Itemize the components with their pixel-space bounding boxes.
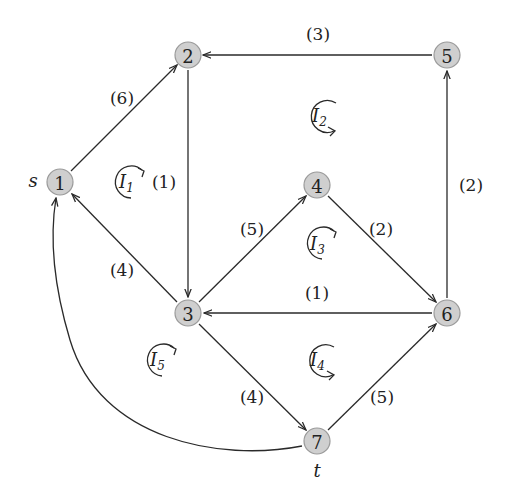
loop-I5: I5: [147, 344, 176, 376]
edge-3-7: [199, 324, 306, 430]
loop-I4: I4: [309, 345, 334, 380]
svg-text:I1: I1: [118, 171, 134, 195]
weight-3-1: (4): [110, 260, 134, 280]
svg-text:2: 2: [182, 46, 193, 67]
weight-3-4: (5): [240, 219, 264, 239]
weight-2-3: (1): [152, 172, 176, 192]
weight-3-7: (4): [240, 387, 264, 407]
weight-1-2: (6): [110, 88, 134, 108]
weight-5-2: (3): [306, 24, 330, 44]
node-4: 4: [304, 172, 330, 198]
flow-network-diagram: (6) (3) (1) (2) (4) (5) (2) (1) (4) (5) …: [0, 0, 507, 498]
svg-text:6: 6: [441, 304, 452, 325]
edge-3-4: [199, 196, 306, 302]
svg-text:3: 3: [182, 304, 193, 325]
edge-7-1-curved: [53, 198, 302, 451]
edge-3-1: [72, 194, 177, 302]
weight-6-3: (1): [305, 283, 329, 303]
weight-4-6: (2): [369, 219, 393, 239]
loop-I2: I2: [311, 100, 336, 136]
weight-6-5: (2): [459, 175, 483, 195]
edge-1-2: [71, 65, 177, 171]
svg-text:7: 7: [311, 432, 322, 453]
svg-text:4: 4: [311, 176, 322, 197]
edge-7-6: [328, 324, 436, 430]
svg-text:I3: I3: [309, 233, 325, 257]
node-6: 6: [434, 300, 460, 326]
node-7: 7: [304, 428, 330, 454]
sink-label: t: [313, 460, 321, 481]
weight-7-6: (5): [370, 387, 394, 407]
loop-I3: I3: [307, 227, 336, 259]
svg-text:1: 1: [54, 173, 65, 194]
node-2: 2: [175, 42, 201, 68]
svg-text:I2: I2: [311, 105, 327, 129]
svg-text:I4: I4: [309, 349, 325, 373]
svg-text:5: 5: [441, 46, 452, 67]
node-3: 3: [175, 300, 201, 326]
node-5: 5: [434, 42, 460, 68]
source-label: s: [28, 170, 37, 191]
loop-I1: I1: [115, 166, 144, 198]
svg-text:I5: I5: [149, 349, 165, 373]
node-1: 1: [47, 169, 73, 195]
edge-4-6: [328, 196, 436, 302]
